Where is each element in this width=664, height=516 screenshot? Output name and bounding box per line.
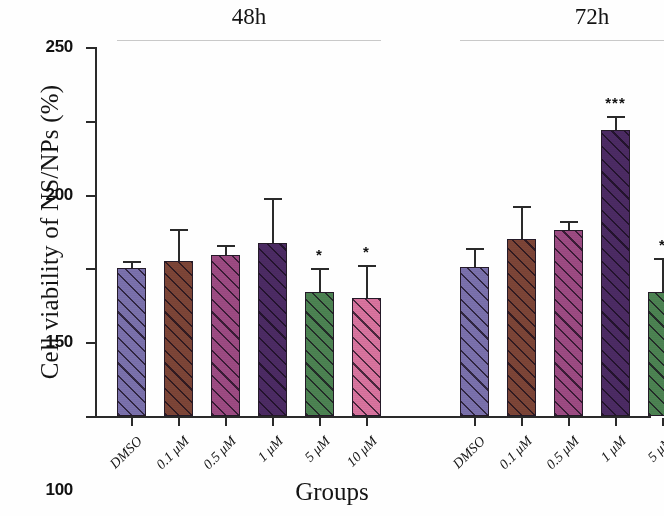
error-cap-72h-0.5μM	[560, 221, 578, 223]
y-tick-100: 100	[86, 268, 95, 270]
error-cap-48h-DMSO	[123, 261, 141, 263]
error-bar-72h-DMSO	[474, 248, 476, 267]
y-tick-label-150: 150	[46, 332, 73, 352]
bar-grain	[306, 293, 333, 415]
error-bar-72h-5μM	[662, 258, 664, 292]
bar-72h-1μM	[601, 130, 630, 416]
panel-header-48h: 48h	[117, 4, 381, 30]
panel-header-72h: 72h	[460, 4, 664, 30]
y-axis-title: Cell viability of NS/NPs (%)	[36, 22, 64, 442]
bar-grain	[259, 244, 286, 415]
y-tick-label-200: 200	[46, 185, 73, 205]
error-cap-48h-5μM	[311, 268, 329, 270]
x-tick-48h-1μM	[272, 418, 274, 426]
error-bar-48h-1μM	[272, 198, 274, 244]
bar-48h-1μM	[258, 243, 287, 416]
error-bar-72h-0.1μM	[521, 206, 523, 238]
bar-48h-5μM	[305, 292, 334, 416]
y-tick-50: 50	[86, 342, 95, 344]
error-cap-48h-1μM	[264, 198, 282, 200]
significance-marker-48h-10μM: *	[363, 243, 370, 260]
bar-grain	[649, 293, 664, 415]
error-cap-72h-DMSO	[466, 248, 484, 250]
x-tick-72h-0.1μM	[521, 418, 523, 426]
plot-area: 050100150200250DMSO0.1 μM0.5 μM1 μM*5 μM…	[95, 47, 650, 417]
chart-canvas: Cell viability of NS/NPs (%) 48h 72h 050…	[0, 0, 664, 516]
significance-marker-72h-1μM: ***	[605, 94, 626, 111]
x-tick-48h-0.1μM	[178, 418, 180, 426]
error-bar-48h-5μM	[319, 268, 321, 292]
x-tick-72h-5μM	[662, 418, 664, 426]
bar-grain	[555, 231, 582, 415]
error-cap-48h-0.1μM	[170, 229, 188, 231]
bar-grain	[602, 131, 629, 415]
y-tick-150: 150	[86, 195, 95, 197]
bar-grain	[165, 262, 192, 415]
bar-grain	[353, 299, 380, 415]
bar-grain	[508, 240, 535, 415]
x-axis-title: Groups	[0, 478, 664, 506]
error-cap-72h-0.1μM	[513, 206, 531, 208]
panel-underline-72h	[460, 40, 664, 41]
error-bar-48h-10μM	[366, 265, 368, 297]
bar-48h-0.5μM	[211, 255, 240, 416]
bar-72h-DMSO	[460, 267, 489, 416]
bar-48h-DMSO	[117, 268, 146, 416]
bar-72h-0.1μM	[507, 239, 536, 416]
x-tick-72h-DMSO	[474, 418, 476, 426]
panel-underline-48h	[117, 40, 381, 41]
y-tick-0: 0	[86, 416, 95, 418]
error-cap-72h-1μM	[607, 116, 625, 118]
bar-grain	[461, 268, 488, 415]
y-tick-200: 200	[86, 121, 95, 123]
bar-72h-0.5μM	[554, 230, 583, 416]
x-tick-48h-0.5μM	[225, 418, 227, 426]
significance-marker-48h-5μM: *	[316, 246, 323, 263]
bar-grain	[118, 269, 145, 415]
bar-72h-5μM	[648, 292, 664, 416]
x-tick-72h-0.5μM	[568, 418, 570, 426]
error-cap-48h-10μM	[358, 265, 376, 267]
error-cap-72h-5μM	[654, 258, 664, 260]
y-tick-label-250: 250	[46, 37, 73, 57]
error-cap-48h-0.5μM	[217, 245, 235, 247]
bar-48h-10μM	[352, 298, 381, 416]
x-tick-72h-1μM	[615, 418, 617, 426]
error-bar-48h-0.1μM	[178, 229, 180, 261]
x-tick-48h-10μM	[366, 418, 368, 426]
x-tick-48h-5μM	[319, 418, 321, 426]
y-axis-line	[95, 47, 97, 418]
y-tick-250: 250	[86, 47, 95, 49]
x-tick-48h-DMSO	[131, 418, 133, 426]
bar-48h-0.1μM	[164, 261, 193, 416]
significance-marker-72h-5μM: *	[659, 236, 664, 253]
bar-grain	[212, 256, 239, 415]
